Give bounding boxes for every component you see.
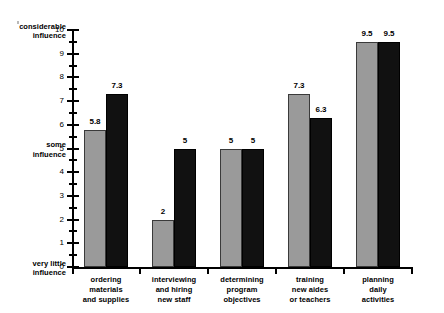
bar-dark-0 bbox=[106, 94, 128, 267]
bar-value-label: 7.3 bbox=[111, 82, 122, 90]
bar-light-0 bbox=[84, 130, 106, 267]
y-tick-label: 6 bbox=[42, 121, 64, 129]
bar-dark-1 bbox=[174, 149, 196, 268]
y-tick-label: 0 bbox=[42, 263, 64, 271]
y-tick-minor bbox=[69, 207, 77, 209]
bar-dark-2 bbox=[242, 149, 264, 268]
x-category-label-1: interviewingand hiringnew staff bbox=[140, 275, 208, 305]
bar-dark-4 bbox=[378, 42, 400, 267]
x-tick bbox=[343, 267, 345, 274]
x-category-label-2: determiningprogramobjectives bbox=[208, 275, 276, 305]
y-tick-label: 2 bbox=[42, 216, 64, 224]
y-tick-major bbox=[67, 195, 79, 197]
y-tick-major bbox=[67, 53, 79, 55]
y-tick-major bbox=[67, 148, 79, 150]
bar-light-2 bbox=[220, 149, 242, 268]
bar-value-label: 5 bbox=[251, 137, 255, 145]
y-tick-minor bbox=[69, 65, 77, 67]
y-tick-label: 5 bbox=[42, 145, 64, 153]
y-tick-minor bbox=[69, 136, 77, 138]
bar-value-label: 5.8 bbox=[89, 118, 100, 126]
x-tick bbox=[275, 267, 277, 274]
y-tick-major bbox=[67, 219, 79, 221]
y-tick-label: 4 bbox=[42, 168, 64, 176]
plot-area: 5.87.325557.36.39.59.5 bbox=[72, 30, 412, 267]
y-tick-major bbox=[67, 242, 79, 244]
y-tick-label: 8 bbox=[42, 73, 64, 81]
y-tick-label: 10 bbox=[42, 26, 64, 34]
y-tick-label: 9 bbox=[42, 50, 64, 58]
y-tick-minor bbox=[69, 41, 77, 43]
bar-value-label: 7.3 bbox=[293, 82, 304, 90]
y-tick-minor bbox=[69, 88, 77, 90]
bar-light-4 bbox=[356, 42, 378, 267]
bar-light-3 bbox=[288, 94, 310, 267]
y-tick-minor bbox=[69, 230, 77, 232]
y-tick-minor bbox=[69, 112, 77, 114]
bar-value-label: 2 bbox=[161, 208, 165, 216]
bar-value-label: 9.5 bbox=[361, 30, 372, 38]
x-category-label-0: orderingmaterialsand supplies bbox=[72, 275, 140, 305]
bar-value-label: 6.3 bbox=[315, 106, 326, 114]
bar-value-label: 5 bbox=[183, 137, 187, 145]
x-tick bbox=[207, 267, 209, 274]
y-tick-minor bbox=[69, 254, 77, 256]
y-tick-minor bbox=[69, 159, 77, 161]
x-category-label-3: trainingnew aidesor teachers bbox=[276, 275, 344, 305]
x-tick-origin bbox=[72, 267, 74, 274]
y-tick-label: 3 bbox=[42, 192, 64, 200]
x-axis-line bbox=[72, 267, 412, 269]
y-tick-major bbox=[67, 124, 79, 126]
bar-value-label: 9.5 bbox=[383, 30, 394, 38]
x-tick bbox=[411, 267, 413, 274]
x-category-label-4: planningdailyactivities bbox=[344, 275, 412, 305]
y-tick-major bbox=[67, 171, 79, 173]
bar-dark-3 bbox=[310, 118, 332, 267]
y-tick-minor bbox=[69, 183, 77, 185]
y-tick-major bbox=[67, 29, 79, 31]
y-tick-major bbox=[67, 100, 79, 102]
y-tick-label: 7 bbox=[42, 97, 64, 105]
y-tick-label: 1 bbox=[42, 239, 64, 247]
bar-value-label: 5 bbox=[229, 137, 233, 145]
y-tick-major bbox=[67, 76, 79, 78]
bar-light-1 bbox=[152, 220, 174, 267]
bar-chart: considerableinfluence someinfluence very… bbox=[0, 0, 444, 313]
x-tick bbox=[139, 267, 141, 274]
